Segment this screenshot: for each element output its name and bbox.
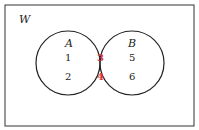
intersection-element: 3: [97, 52, 104, 63]
intersection-element: 4: [97, 71, 104, 82]
set-b-element: 5: [129, 52, 135, 63]
universe-label: W: [19, 13, 32, 26]
set-b-element: 6: [129, 71, 135, 82]
set-a-label: A: [64, 37, 73, 50]
set-a-element: 1: [65, 52, 71, 63]
venn-diagram: W A B 1 2 5 6 3 4: [0, 0, 199, 130]
set-a-element: 2: [65, 71, 71, 82]
set-b-label: B: [127, 37, 136, 50]
